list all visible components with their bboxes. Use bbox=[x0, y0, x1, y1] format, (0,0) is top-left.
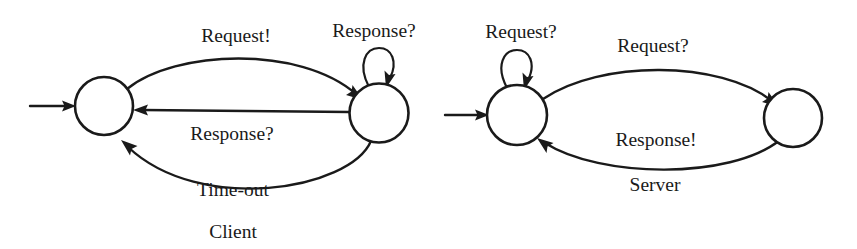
server-transition-request-path bbox=[543, 70, 772, 101]
server-state-processing bbox=[764, 89, 822, 147]
client-state-waiting bbox=[350, 84, 409, 143]
client-transition-timeout: Time-out bbox=[121, 140, 371, 200]
client-transition-timeout-label: Time-out bbox=[197, 179, 269, 200]
server-self-loop-request: Request? bbox=[485, 21, 556, 90]
client-self-loop-response-label: Response? bbox=[332, 20, 415, 41]
server-transition-response-label: Response! bbox=[615, 129, 696, 150]
client-machine-caption: Client bbox=[209, 221, 257, 242]
server-self-loop-request-label: Request? bbox=[485, 21, 556, 42]
client-transition-response-label: Response? bbox=[190, 123, 273, 144]
server-initial-arrow bbox=[445, 110, 489, 121]
server-transition-request: Request? bbox=[543, 35, 779, 107]
client-machine: Request! Response? Time-out Response? bbox=[30, 20, 416, 242]
client-transition-request-label: Request! bbox=[201, 25, 270, 46]
client-self-loop-response: Response? bbox=[332, 20, 415, 88]
client-transition-response: Response? bbox=[133, 105, 349, 145]
client-transition-request-path bbox=[127, 59, 356, 95]
server-machine-caption: Server bbox=[630, 174, 681, 195]
client-initial-arrow bbox=[30, 101, 76, 112]
client-transition-response-path bbox=[143, 110, 349, 112]
client-transition-request: Request! bbox=[127, 25, 363, 100]
fsm-canvas: Request! Response? Time-out Response? bbox=[0, 0, 857, 249]
state-machine-diagram: Request! Response? Time-out Response? bbox=[0, 0, 857, 249]
server-transition-request-label: Request? bbox=[617, 35, 688, 56]
server-transition-response: Response! bbox=[537, 129, 780, 170]
server-machine: Request? Response! Request? Server bbox=[445, 21, 822, 195]
client-state-initial bbox=[75, 77, 133, 135]
server-state-initial bbox=[487, 85, 547, 145]
